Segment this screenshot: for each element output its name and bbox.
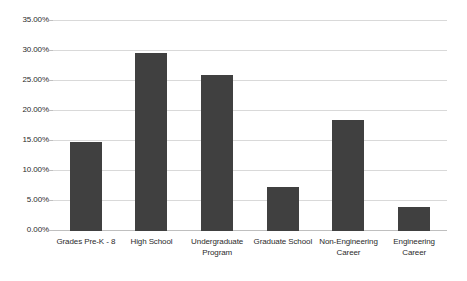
bar-slot [316,20,382,231]
x-axis-tick-label: Non-Engineering Career [316,236,382,258]
bar-high-school [135,53,167,231]
y-axis-tick-label: 30.00% [3,46,49,54]
y-axis-tick-label: 15.00% [3,136,49,144]
x-axis-tick-label: Undergraduate Program [184,236,250,258]
bar-undergraduate-program [201,75,233,231]
x-axis-tick-label: Graduate School [250,236,316,247]
bar-grades-pre-k-8 [70,142,102,231]
y-axis-tick-label: 25.00% [3,76,49,84]
bar-engineering-career [398,207,430,231]
x-axis-tick-label: Engineering Career [381,236,447,258]
y-axis: 35.00% 30.00% 25.00% 20.00% 15.00% 10.00… [0,20,49,231]
bar-slot [119,20,185,231]
bar-slot [53,20,119,231]
plot-area [53,20,447,231]
bar-non-engineering-career [332,120,364,231]
y-axis-tick-label: 10.00% [3,166,49,174]
bar-slot [381,20,447,231]
y-axis-tick-label: 0.00% [3,226,49,234]
x-axis-tick-label: High School [119,236,185,247]
bar-graduate-school [267,187,299,231]
y-axis-tick-label: 5.00% [3,196,49,204]
x-axis: Grades Pre-K - 8 High School Undergradua… [53,236,447,276]
x-axis-tick-label: Grades Pre-K - 8 [53,236,119,247]
bar-slot [184,20,250,231]
y-axis-tick-label: 20.00% [3,106,49,114]
y-axis-tick-label: 35.00% [3,16,49,24]
bar-slot [250,20,316,231]
bar-chart: 35.00% 30.00% 25.00% 20.00% 15.00% 10.00… [0,0,467,281]
